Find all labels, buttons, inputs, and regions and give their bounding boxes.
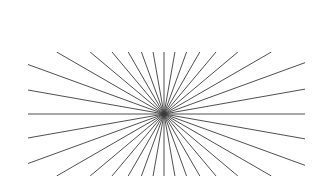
figure-container xyxy=(0,0,331,195)
radial-sunburst-figure xyxy=(0,0,331,195)
figure-background xyxy=(0,0,331,195)
